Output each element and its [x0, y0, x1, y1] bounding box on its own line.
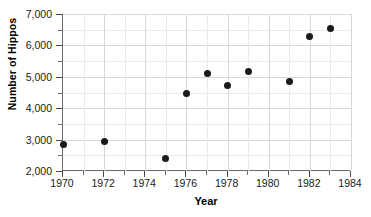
y-axis-tick-label: 3,000: [2, 135, 52, 146]
data-point: [183, 90, 190, 97]
data-point: [286, 78, 293, 85]
x-axis-tick: [62, 171, 63, 177]
x-axis-tick-label: 1982: [289, 178, 329, 189]
gridline-vertical: [269, 14, 270, 171]
gridline-vertical: [228, 14, 229, 171]
data-point: [101, 138, 108, 145]
x-axis-minor-tick: [165, 171, 166, 175]
gridline-vertical-minor: [289, 14, 290, 171]
x-axis-minor-tick: [329, 171, 330, 175]
x-axis-tick: [144, 171, 145, 177]
x-axis-tick: [268, 171, 269, 177]
y-axis-tick-label: 4,000: [2, 103, 52, 114]
y-axis-tick-label: 6,000: [2, 40, 52, 51]
data-point: [224, 82, 231, 89]
x-axis-minor-tick: [83, 171, 84, 175]
data-point: [162, 155, 169, 162]
gridline-vertical: [145, 14, 146, 171]
gridline-vertical-minor: [207, 14, 208, 171]
gridline-vertical-minor: [330, 14, 331, 171]
x-axis-tick: [103, 171, 104, 177]
x-axis-tick-label: 1974: [124, 178, 164, 189]
x-axis-tick: [227, 171, 228, 177]
x-axis-tick-label: 1978: [207, 178, 247, 189]
data-point: [327, 25, 334, 32]
x-axis-tick: [309, 171, 310, 177]
y-axis-tick-label: 2,000: [2, 166, 52, 177]
data-point: [204, 70, 211, 77]
x-axis-tick-label: 1972: [83, 178, 123, 189]
scatter-chart: Number of Hippos Year 2,0003,0004,0005,0…: [0, 0, 371, 217]
x-axis-tick-label: 1976: [165, 178, 205, 189]
gridline-vertical-minor: [248, 14, 249, 171]
plot-area: [62, 14, 350, 171]
x-axis-minor-tick: [288, 171, 289, 175]
x-axis-tick-label: 1980: [248, 178, 288, 189]
gridline-vertical: [351, 14, 352, 171]
x-axis-tick-label: 1970: [42, 178, 82, 189]
y-axis-tick-label: 7,000: [2, 9, 52, 20]
y-axis-title: Number of Hippos: [6, 16, 18, 112]
x-axis-tick: [350, 171, 351, 177]
x-axis-tick: [185, 171, 186, 177]
x-axis-minor-tick: [124, 171, 125, 175]
gridline-vertical-minor: [166, 14, 167, 171]
data-point: [306, 33, 313, 40]
gridline-vertical: [104, 14, 105, 171]
gridline-vertical-minor: [125, 14, 126, 171]
x-axis-minor-tick: [247, 171, 248, 175]
y-axis-tick-label: 5,000: [2, 72, 52, 83]
gridline-vertical-minor: [84, 14, 85, 171]
x-axis-minor-tick: [206, 171, 207, 175]
x-axis-tick-label: 1984: [330, 178, 370, 189]
x-axis-title: Year: [62, 195, 350, 207]
data-point: [245, 68, 252, 75]
data-point: [60, 141, 67, 148]
